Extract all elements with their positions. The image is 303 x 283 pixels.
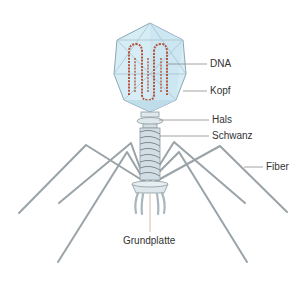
label-dna: DNA	[210, 59, 231, 69]
label-hals: Hals	[212, 115, 232, 125]
tail-sheath	[140, 128, 160, 180]
label-fiber: Fiber	[266, 162, 289, 172]
head-capsid	[114, 23, 186, 112]
base-plate	[132, 181, 168, 232]
label-schwanz: Schwanz	[212, 131, 253, 141]
label-kopf: Kopf	[210, 86, 231, 96]
label-grundplatte: Grundplatte	[123, 236, 175, 246]
